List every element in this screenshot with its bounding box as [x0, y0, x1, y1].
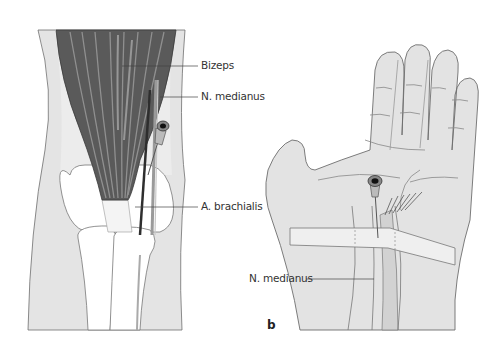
anatomy-illustration [0, 0, 503, 350]
label-n-medianus-wrist: N. medianus [249, 272, 313, 284]
panel-letter-b: b [267, 318, 276, 332]
label-n-medianus-arm: N. medianus [201, 90, 265, 102]
anatomy-figure: Bizeps N. medianus A. brachialis N. medi… [0, 0, 503, 350]
label-a-brachialis: A. brachialis [201, 200, 263, 212]
label-bizeps: Bizeps [201, 59, 234, 71]
panel-b-hand [266, 45, 479, 330]
panel-a-arm [28, 30, 198, 330]
